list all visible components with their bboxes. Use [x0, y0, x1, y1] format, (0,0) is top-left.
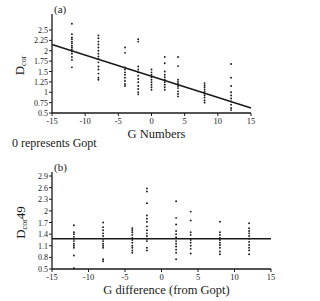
data-point: [175, 252, 177, 254]
x-tick-label: -5: [121, 272, 128, 282]
data-point: [102, 243, 104, 245]
data-point: [71, 66, 73, 68]
y-tick-label: 2.25: [34, 36, 48, 45]
data-point: [146, 218, 148, 220]
data-point: [137, 88, 139, 90]
data-point: [151, 86, 153, 88]
data-point: [230, 91, 232, 93]
data-point: [73, 233, 75, 235]
data-point: [146, 247, 148, 249]
data-point: [190, 245, 192, 247]
data-point: [137, 81, 139, 83]
data-point: [71, 37, 73, 39]
data-point: [102, 235, 104, 237]
panel-label: (a): [54, 3, 67, 16]
data-point: [164, 71, 166, 73]
data-point: [137, 41, 139, 43]
data-point: [131, 252, 133, 254]
data-point: [131, 229, 133, 231]
data-point: [71, 38, 73, 40]
data-point: [175, 249, 177, 251]
regression-line: [52, 45, 251, 108]
data-point: [146, 249, 148, 251]
data-point: [151, 79, 153, 81]
x-tick-label: -15: [46, 272, 57, 282]
data-point: [230, 104, 232, 106]
data-point: [190, 248, 192, 250]
data-point: [71, 33, 73, 35]
data-point: [131, 249, 133, 251]
data-point: [137, 68, 139, 70]
y-tick-label: 1.7: [38, 219, 48, 228]
data-point: [73, 236, 75, 238]
data-point: [151, 89, 153, 91]
data-point: [204, 97, 206, 99]
y-tick-label: 1.25: [34, 78, 48, 87]
data-point: [190, 253, 192, 255]
data-point: [177, 79, 179, 81]
data-point: [146, 191, 148, 193]
data-point: [97, 41, 99, 43]
data-point: [102, 222, 104, 224]
data-point: [219, 221, 221, 223]
y-tick-label: 1.5: [38, 68, 48, 77]
data-point: [219, 234, 221, 236]
data-point: [204, 84, 206, 86]
x-tick-label: 5: [196, 272, 200, 282]
data-point: [175, 258, 177, 260]
data-point: [248, 247, 250, 249]
data-point: [73, 254, 75, 256]
y-tick-label: 2: [44, 47, 48, 56]
y-tick-label: 0.8: [38, 253, 48, 262]
data-point: [177, 90, 179, 92]
data-point: [102, 240, 104, 242]
data-point: [190, 242, 192, 244]
data-point: [164, 62, 166, 64]
data-point: [151, 68, 153, 70]
panel-label: (b): [54, 161, 67, 174]
data-point: [248, 227, 250, 229]
data-point: [177, 65, 179, 67]
data-point: [175, 236, 177, 238]
data-point: [248, 235, 250, 237]
data-point: [230, 63, 232, 65]
data-point: [146, 187, 148, 189]
data-point: [97, 34, 99, 36]
data-point: [219, 231, 221, 233]
data-point: [137, 93, 139, 95]
data-point: [71, 46, 73, 48]
y-tick-label: 2.3: [38, 195, 48, 204]
data-point: [102, 245, 104, 247]
data-point: [73, 247, 75, 249]
data-point: [230, 109, 232, 111]
data-point: [204, 95, 206, 97]
x-tick-label: -15: [46, 116, 57, 126]
data-point: [71, 59, 73, 61]
data-point: [71, 56, 73, 58]
data-point: [71, 41, 73, 43]
data-point: [146, 235, 148, 237]
data-point: [146, 202, 148, 204]
data-point: [131, 245, 133, 247]
data-point: [124, 77, 126, 79]
data-point: [73, 243, 75, 245]
data-point: [137, 85, 139, 87]
data-point: [164, 86, 166, 88]
x-tick-label: 5: [183, 116, 187, 126]
data-point: [230, 107, 232, 109]
data-point: [204, 100, 206, 102]
y-tick-label: 1: [44, 88, 48, 97]
data-point: [204, 88, 206, 90]
data-point: [97, 56, 99, 58]
data-point: [151, 84, 153, 86]
x-tick-label: 10: [214, 116, 223, 126]
x-tick-label: 15: [247, 116, 256, 126]
data-point: [124, 83, 126, 85]
y-tick-label: 0.75: [34, 99, 48, 108]
x-tick-label: 15: [267, 272, 276, 282]
data-point: [146, 215, 148, 217]
data-point: [137, 38, 139, 40]
data-point: [131, 242, 133, 244]
data-point: [124, 52, 126, 54]
x-axis-label: G Numbers: [128, 127, 186, 141]
